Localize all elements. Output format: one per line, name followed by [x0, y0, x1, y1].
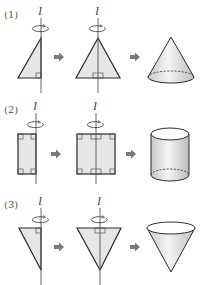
axis-label: l	[34, 100, 38, 113]
rotation-arrow-icon	[32, 217, 48, 223]
axis-label: l	[39, 195, 43, 208]
inverted-cone-solid	[147, 222, 195, 272]
solids-of-revolution-diagram: (1) l l (2)	[0, 0, 202, 285]
panel-1: (1) l l	[4, 5, 194, 93]
transform-arrow-icon	[51, 150, 61, 159]
doubled-rectangle-figure: l	[77, 100, 115, 184]
rotation-arrow-icon	[87, 122, 103, 128]
rotation-arrow-icon	[27, 122, 43, 128]
transform-arrow-icon	[54, 53, 64, 62]
panel-2: (2) l l	[4, 100, 189, 184]
axis-label: l	[39, 5, 43, 18]
transform-arrow-icon	[130, 243, 140, 252]
transform-arrow-icon	[54, 243, 64, 252]
right-triangle-figure: l	[18, 5, 48, 93]
panel-label: (1)	[4, 9, 18, 20]
axis-label: l	[94, 100, 98, 113]
axis-label: l	[98, 195, 102, 208]
inverted-isosceles-triangle-figure: l	[77, 195, 121, 285]
cylinder-solid	[151, 128, 189, 181]
panel-label: (2)	[4, 104, 18, 115]
isosceles-triangle-figure: l	[76, 5, 120, 93]
inverted-right-triangle-figure: l	[19, 195, 48, 285]
transform-arrow-icon	[126, 150, 136, 159]
rotation-arrow-icon	[89, 26, 105, 32]
rotation-arrow-icon	[32, 26, 48, 32]
panel-3: (3) l l	[4, 195, 195, 285]
rectangle-figure: l	[18, 100, 43, 184]
panel-label: (3)	[4, 199, 18, 210]
rotation-arrow-icon	[91, 217, 107, 223]
cone-solid	[148, 37, 194, 83]
axis-label: l	[96, 5, 100, 18]
transform-arrow-icon	[130, 53, 140, 62]
